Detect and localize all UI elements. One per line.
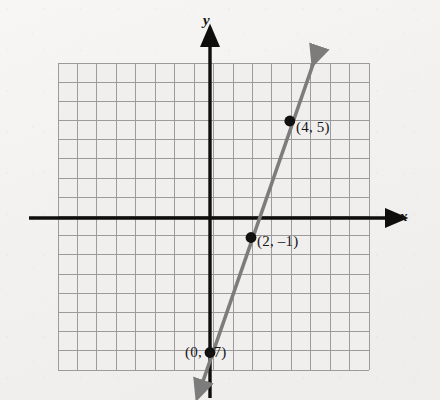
data-point-2-neg1 bbox=[246, 232, 257, 243]
point-label-4-5: (4, 5) bbox=[296, 119, 330, 136]
coordinate-plane-figure: y x (4, 5) (2, –1) (0, –7) bbox=[0, 0, 440, 400]
coordinate-plane-svg bbox=[0, 0, 440, 400]
data-point-4-5 bbox=[284, 116, 295, 127]
point-label-2-neg1: (2, –1) bbox=[257, 233, 298, 250]
y-axis-label: y bbox=[203, 12, 210, 29]
x-axis-label: x bbox=[400, 208, 408, 225]
point-label-0-neg7: (0, –7) bbox=[185, 344, 226, 361]
